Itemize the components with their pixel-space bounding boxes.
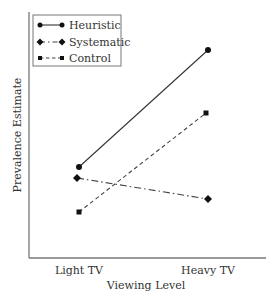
systematic-point-light <box>73 174 81 182</box>
chart-canvas: Heuristic Systematic Control Light TV He… <box>0 0 279 304</box>
x-tick-light-tv: Light TV <box>55 264 104 277</box>
control-point-light <box>77 210 82 215</box>
systematic-point-heavy <box>204 195 212 203</box>
heuristic-point-light <box>76 164 82 170</box>
legend-label-heuristic: Heuristic <box>69 19 121 32</box>
y-axis-title: Prevalence Estimate <box>11 78 24 193</box>
x-axis-title: Viewing Level <box>106 279 186 292</box>
heuristic-point-heavy <box>205 47 211 53</box>
legend: Heuristic Systematic Control <box>33 15 130 66</box>
legend-label-systematic: Systematic <box>69 36 130 49</box>
x-tick-heavy-tv: Heavy TV <box>181 264 236 277</box>
series-control <box>77 111 209 215</box>
control-point-heavy <box>204 111 209 116</box>
legend-label-control: Control <box>69 52 111 65</box>
series-systematic <box>73 174 212 203</box>
